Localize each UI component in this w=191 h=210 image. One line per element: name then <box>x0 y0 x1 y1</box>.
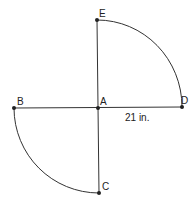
label-E: E <box>99 8 106 19</box>
point-B <box>12 106 16 110</box>
label-D: D <box>181 95 188 106</box>
arc-BC <box>14 108 99 193</box>
arc-ED <box>97 20 182 107</box>
diagram-canvas: E A B D C 21 in. <box>0 0 191 210</box>
measurement-AD: 21 in. <box>125 112 149 123</box>
point-C <box>97 191 101 195</box>
label-B: B <box>17 96 24 107</box>
label-C: C <box>102 181 109 192</box>
label-A: A <box>100 96 107 107</box>
